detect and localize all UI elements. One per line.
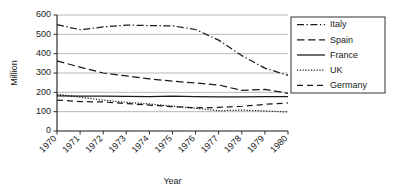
x-tick-label: 1972 [83,133,104,154]
legend-label-spain: Spain [330,35,353,45]
x-tick-label: 1973 [106,133,127,154]
series-line-spain [57,61,288,93]
x-axis-title: Year [163,176,181,186]
x-tick-label: 1979 [245,133,266,154]
x-tick-label: 1971 [60,133,81,154]
series-line-france [57,96,288,97]
chart-canvas: 0100200300400500600197019711972197319741… [0,0,393,189]
x-tick-label: 1976 [176,133,197,154]
y-tick-label: 300 [36,67,51,77]
y-tick-label: 100 [36,106,51,116]
y-axis-title: Million [9,60,19,86]
y-tick-label: 600 [36,9,51,19]
line-chart: 0100200300400500600197019711972197319741… [0,0,393,189]
x-tick-label: 1978 [222,133,243,154]
series-line-italy [57,25,288,76]
legend-label-germany: Germany [330,80,368,90]
legend-label-italy: Italy [330,19,347,29]
x-tick-label: 1980 [268,133,289,154]
x-tick-label: 1970 [37,133,58,154]
legend-label-uk: UK [330,65,343,75]
y-tick-label: 500 [36,29,51,39]
y-tick-label: 200 [36,87,51,97]
y-tick-label: 400 [36,48,51,58]
x-tick-label: 1974 [130,133,151,154]
x-tick-label: 1975 [153,133,174,154]
x-tick-label: 1977 [199,133,220,154]
legend-label-france: France [330,50,358,60]
series-line-germany [57,100,288,108]
